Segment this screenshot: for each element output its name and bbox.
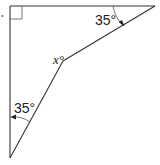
unknown-angle-label: x° [52,52,64,67]
right-angle-marker [10,6,22,19]
stray-dot [2,15,4,17]
bottom-angle-label: 35° [14,100,35,116]
top-angle-label: 35° [95,12,116,28]
angle-diagram: 35° 35° x° [0,0,160,165]
